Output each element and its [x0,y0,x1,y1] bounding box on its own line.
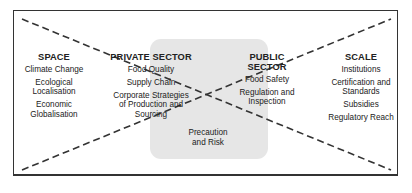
column-item: Corporate Strategies of Production and S… [113,91,189,120]
column-item: Food Safety [231,75,303,85]
center-label-precaution-and-risk: Precaution and Risk [184,128,232,148]
column-item: Ecological Localisation [29,78,79,97]
column-heading: SCALE [324,52,398,62]
column-heading: PUBLIC SECTOR [231,52,303,72]
column-item: Climate Change [20,65,88,75]
column-private-sector: PRIVATE SECTOR Food Quality Supply Chain… [110,52,192,123]
column-item: Subsidies [324,100,398,110]
column-heading: SPACE [20,52,88,62]
column-item: Regulatory Reach [324,113,398,123]
column-item: Food Quality [110,65,192,75]
column-scale: SCALE Institutions Certification and Sta… [324,52,398,126]
column-heading: PRIVATE SECTOR [110,52,192,62]
column-item: Regulation and Inspection [236,88,298,107]
column-item: Institutions [324,65,398,75]
column-space: SPACE Climate Change Ecological Localisa… [20,52,88,123]
column-item: Supply Chain [110,78,192,88]
column-item: Economic Globalisation [29,100,79,119]
column-public-sector: PUBLIC SECTOR Food Safety Regulation and… [231,52,303,110]
column-item: Certification and Standards [328,78,394,97]
